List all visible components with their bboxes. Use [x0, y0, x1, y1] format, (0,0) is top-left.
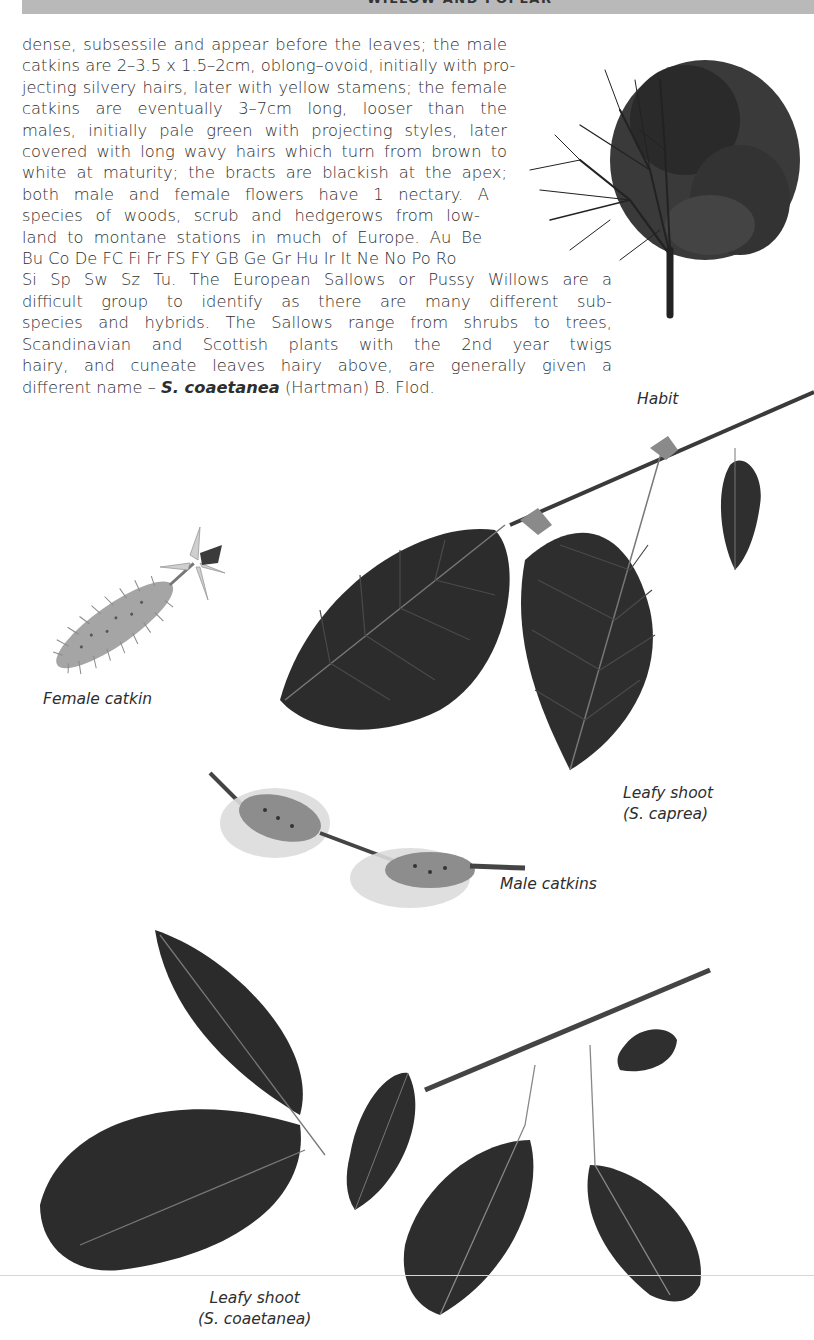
running-header: WILLOW AND POPLAR [22, 0, 814, 14]
female-catkin-icon [40, 515, 230, 675]
text-fragment: different name – [22, 378, 161, 397]
text-line: covered with long wavy hairs which turn … [22, 141, 507, 162]
tree-habit-icon [510, 50, 810, 320]
text-line: both male and female flowers have 1 nect… [22, 184, 489, 205]
caption-line: (S. coaetanea) [198, 1309, 311, 1330]
text-line: catkins are 2–3.5 x 1.5–2cm, oblong–ovoi… [22, 55, 507, 76]
species-description: dense, subsessile and appear before the … [22, 34, 507, 398]
text-line: catkins are eventually 3–7cm long, loose… [22, 98, 507, 119]
caption-line: (S. caprea) [623, 804, 713, 825]
leafy-shoot-icon [270, 380, 814, 790]
text-line: Bu Co De FC Fi Fr FS FY GB Ge Gr Hu Ir I… [22, 248, 507, 269]
text-line: Scandinavian and Scottish plants with th… [22, 334, 612, 355]
text-line: males, initially pale green with project… [22, 120, 507, 141]
caption-leafy-shoot-caprea: Leafy shoot (S. caprea) [623, 783, 713, 825]
caption-line: Leafy shoot [198, 1288, 311, 1309]
text-line: jecting silvery hairs, later with yellow… [22, 77, 507, 98]
running-header-title: WILLOW AND POPLAR [367, 0, 552, 6]
text-line: white at maturity; the bracts are blacki… [22, 162, 507, 183]
caption-leafy-shoot-coaetanea: Leafy shoot (S. coaetanea) [198, 1288, 311, 1330]
text-line: dense, subsessile and appear before the … [22, 34, 507, 55]
caption-line: Leafy shoot [623, 783, 713, 804]
text-line last: land to montane stations in much of Euro… [22, 227, 482, 248]
species-name: S. coaetanea [161, 378, 280, 397]
page-divider [0, 1275, 814, 1276]
leafy-shoot-icon [20, 925, 814, 1335]
male-catkins-icon [200, 768, 540, 908]
caption-female-catkin: Female catkin [43, 689, 152, 710]
text-line: hairy, and cuneate leaves hairy above, a… [22, 355, 612, 376]
text-line: species of woods, scrub and hedgerows fr… [22, 205, 480, 226]
caption-male-catkins: Male catkins [500, 874, 597, 895]
